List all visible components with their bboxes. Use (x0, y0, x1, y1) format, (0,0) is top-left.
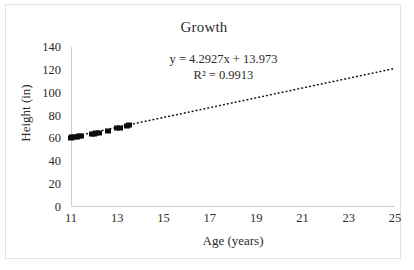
x-axis-title: Age (years) (71, 233, 395, 249)
x-tick-label: 25 (375, 211, 414, 225)
data-point-marker (117, 125, 123, 130)
x-tick-label: 11 (51, 211, 91, 225)
y-axis-title: Height (in) (18, 58, 34, 168)
y-tick-label: 20 (27, 178, 61, 190)
x-tick-label: 23 (329, 211, 369, 225)
x-tick-label: 17 (190, 211, 230, 225)
chart-container: Growth y = 4.2927x + 13.973 R² = 0.9913 … (5, 4, 401, 259)
x-tick-label: 15 (144, 211, 184, 225)
data-point-marker (78, 133, 84, 138)
chart-title: Growth (6, 19, 402, 36)
x-tick-label: 21 (282, 211, 322, 225)
x-tick-label: 13 (97, 211, 137, 225)
data-point-marker (126, 123, 132, 128)
data-point-marker (96, 130, 102, 135)
plot-area (71, 47, 395, 207)
x-axis-tick-labels: 1113151719212325 (71, 211, 395, 229)
data-point-marker (105, 129, 111, 134)
y-tick-label: 140 (27, 41, 61, 53)
x-tick-label: 19 (236, 211, 276, 225)
